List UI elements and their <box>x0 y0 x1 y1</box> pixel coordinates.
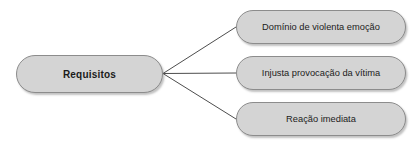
node-root-label: Requisitos <box>57 69 122 80</box>
diagram-canvas: Requisitos Domínio de violenta emoção In… <box>0 0 417 149</box>
node-branch-dominio-violenta-emocao[interactable]: Domínio de violenta emoção <box>236 10 406 44</box>
node-branch-label: Domínio de violenta emoção <box>256 22 386 32</box>
connector-root-to-branch-2 <box>163 73 236 74</box>
node-branch-injusta-provocacao-da-vitima[interactable]: Injusta provocação da vítima <box>236 56 406 90</box>
node-branch-reacao-imediata[interactable]: Reação imediata <box>236 102 406 136</box>
node-branch-label: Reação imediata <box>280 114 362 124</box>
connector-root-to-branch-1 <box>163 27 236 74</box>
node-root-requisitos[interactable]: Requisitos <box>16 55 163 93</box>
node-branch-label: Injusta provocação da vítima <box>256 68 386 78</box>
connector-root-to-branch-3 <box>163 74 236 120</box>
